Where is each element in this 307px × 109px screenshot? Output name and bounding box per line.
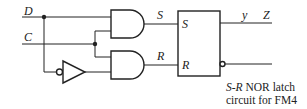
inverter-gate [63, 61, 85, 83]
output-label-y: y [241, 8, 248, 22]
output-label-z: Z [263, 8, 270, 22]
wire-c-to-upper-and [95, 31, 111, 44]
caption-line-1: S-R NOR latch [226, 81, 295, 93]
and-gate-lower [111, 51, 144, 79]
input-label-d: D [23, 4, 33, 18]
output-inversion-bubble [220, 62, 225, 67]
input-label-c: C [24, 30, 33, 44]
latch-input-s: S [182, 17, 188, 31]
circuit-diagram: D C S R S R y Z S-R NOR latch circuit fo… [0, 0, 307, 109]
and-gate-upper [111, 10, 144, 38]
inverter-bubble [57, 69, 63, 75]
latch-input-r: R [181, 58, 190, 72]
signal-label-s: S [157, 8, 163, 22]
signal-label-r: R [156, 49, 165, 63]
wire-c-to-lower-and [95, 44, 111, 57]
caption-line-2: circuit for FM4 [226, 94, 297, 106]
